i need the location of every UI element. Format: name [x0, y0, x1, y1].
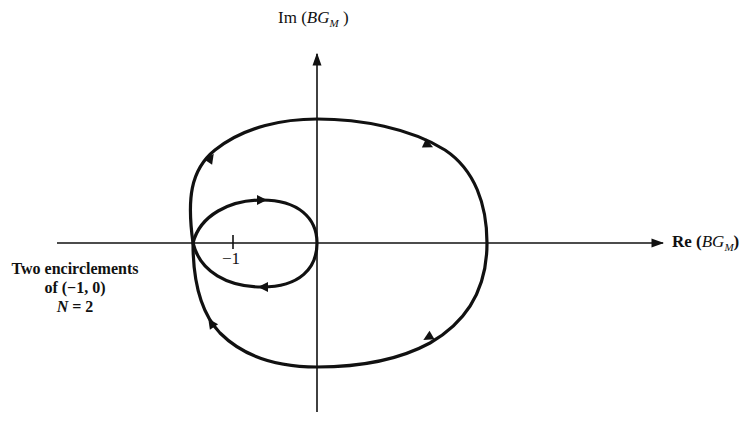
tick-label-minus-one: −1	[222, 249, 240, 269]
arrow-icon	[257, 195, 267, 205]
encirclement-annotation: Two encirclements of (−1, 0) N = 2	[0, 259, 150, 316]
arrow-icon	[258, 282, 268, 292]
annotation-line-1: Two encirclements	[0, 259, 150, 278]
annotation-line-3: N = 2	[0, 297, 150, 316]
real-axis-label: Re (BGM)	[672, 232, 739, 253]
direction-arrows	[204, 138, 435, 344]
annotation-line-2: of (−1, 0)	[0, 278, 150, 297]
nyquist-diagram	[0, 0, 752, 431]
imaginary-axis-label: Im (BGM )	[278, 8, 349, 29]
